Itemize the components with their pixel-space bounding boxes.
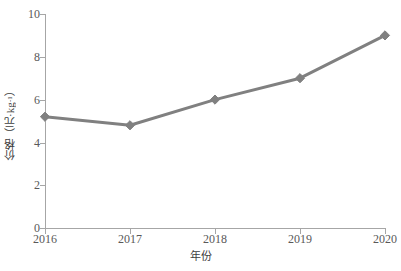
data-point-2018 — [210, 95, 219, 104]
y-axis-ticks — [40, 15, 45, 229]
data-point-2016 — [40, 112, 49, 121]
series-line-price — [45, 35, 385, 125]
series-markers-price — [40, 31, 389, 130]
x-tick-label-2019: 2019 — [288, 232, 312, 246]
x-axis-tick-labels: 2016 2017 2018 2019 2020 — [0, 232, 401, 248]
line-chart: 价格（元·kg-1） 10 8 6 4 2 0 — [0, 0, 401, 271]
x-tick-label-2020: 2020 — [373, 232, 397, 246]
x-tick-label-2018: 2018 — [203, 232, 227, 246]
plot-area — [0, 0, 401, 271]
x-axis-title: 年份 — [0, 249, 401, 263]
x-tick-label-2016: 2016 — [33, 232, 57, 246]
data-point-2017 — [125, 121, 134, 130]
x-tick-label-2017: 2017 — [118, 232, 142, 246]
